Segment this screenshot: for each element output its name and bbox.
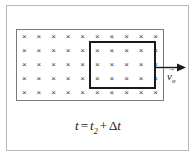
field-mark-icon: × [32, 72, 47, 86]
field-mark-icon: × [46, 86, 61, 100]
caption-equation: t=t2+Δt [0, 118, 196, 136]
field-mark-icon: × [46, 30, 61, 44]
field-mark-icon: × [46, 72, 61, 86]
caption-term2: t [117, 118, 121, 133]
physics-figure: ××××××××××××××××××××××××××××××××××××××××… [0, 0, 196, 157]
field-mark-icon: × [46, 58, 61, 72]
field-mark-icon: × [75, 30, 90, 44]
field-mark-icon: × [46, 44, 61, 58]
field-mark-icon: × [32, 44, 47, 58]
field-mark-icon: × [75, 72, 90, 86]
field-mark-icon: × [75, 44, 90, 58]
field-mark-icon: × [61, 30, 76, 44]
caption-equals: = [79, 118, 90, 133]
field-mark-icon: × [75, 86, 90, 100]
field-mark-icon: × [32, 58, 47, 72]
field-mark-icon: × [61, 86, 76, 100]
field-mark-icon: × [32, 30, 47, 44]
caption-plus: + [98, 118, 109, 133]
field-mark-icon: × [17, 58, 32, 72]
field-mark-icon: × [32, 86, 47, 100]
vector-accent-icon: → [167, 65, 172, 73]
field-mark-icon: × [61, 72, 76, 86]
field-mark-icon: × [17, 72, 32, 86]
conducting-loop [89, 41, 156, 89]
field-mark-icon: × [17, 30, 32, 44]
field-mark-icon: × [75, 58, 90, 72]
field-mark-icon: × [61, 44, 76, 58]
field-mark-icon: × [17, 86, 32, 100]
velocity-subscript: o [172, 77, 176, 85]
field-mark-icon: × [61, 58, 76, 72]
field-mark-icon: × [17, 44, 32, 58]
velocity-label: →vo [167, 70, 175, 85]
